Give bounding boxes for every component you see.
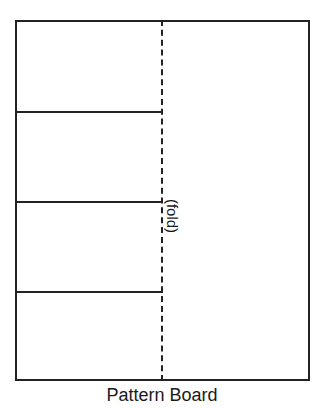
section-divider-line-2 [15,201,163,203]
diagram-caption: Pattern Board [0,384,324,406]
section-divider-line-1 [15,111,163,113]
fold-label: (fold) [164,199,181,233]
section-divider-line-3 [15,291,163,293]
